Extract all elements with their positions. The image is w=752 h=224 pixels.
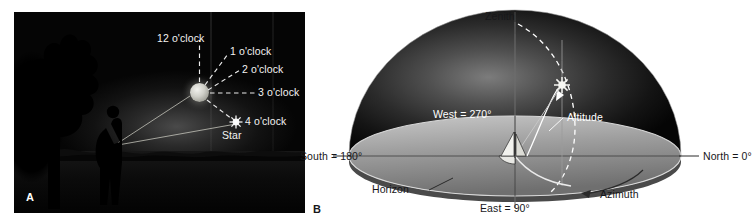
panel-b: Zenith Altitude West = 270° South = 180°… xyxy=(313,0,717,224)
label-north: North = 0° xyxy=(703,150,752,162)
label-3-oclock: 3 o'clock xyxy=(258,86,299,98)
star xyxy=(230,116,243,129)
observer-silhouette xyxy=(96,106,122,205)
label-2-oclock: 2 o'clock xyxy=(242,63,283,75)
label-altitude: Altitude xyxy=(567,111,603,123)
label-azimuth: Azimuth xyxy=(600,188,639,200)
ray-1-oclock xyxy=(205,54,228,85)
ray-2-oclock xyxy=(208,70,240,90)
label-horizon: Horizon xyxy=(372,183,409,195)
panel-letter-b: B xyxy=(313,203,321,215)
panel-letter-a: A xyxy=(26,191,34,203)
sightline-to-moon xyxy=(118,96,190,143)
label-east: East = 90° xyxy=(480,202,530,214)
sightline-to-star xyxy=(118,124,236,145)
label-1-oclock: 1 o'clock xyxy=(230,45,271,57)
label-star: Star xyxy=(222,129,242,141)
label-12-oclock: 12 o'clock xyxy=(157,32,204,44)
label-4-oclock: 4 o'clock xyxy=(245,115,286,127)
label-zenith: Zenith xyxy=(485,10,515,22)
label-west: West = 270° xyxy=(433,108,492,120)
panel-a: 12 o'clock 1 o'clock 2 o'clock 3 o'clock… xyxy=(14,12,305,213)
label-south: South = 180° xyxy=(300,150,362,162)
ray-4-oclock xyxy=(207,100,232,119)
star xyxy=(554,77,570,93)
